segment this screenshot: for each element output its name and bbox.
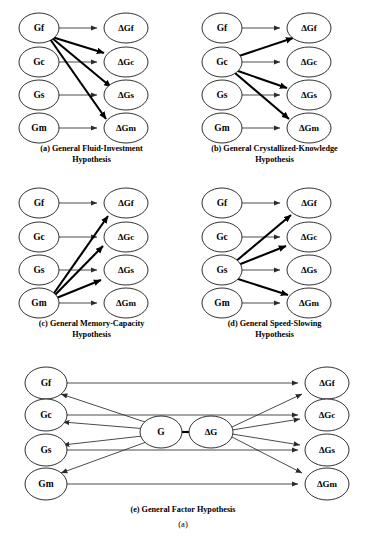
node-label-gs: Gs — [40, 445, 51, 455]
node-label-gf: Gf — [217, 198, 228, 208]
node-label-g: G — [157, 427, 165, 437]
panel-d-diagram: Gf Gc Gs Gm ΔGf ΔGc ΔGs ΔGm — [183, 175, 366, 320]
panel-b-node-gc: Gc — [202, 47, 242, 77]
panel-e-node-dg: ΔG — [189, 416, 233, 448]
panel-d-thin-edges — [242, 203, 280, 303]
node-label-dgc: ΔGc — [118, 232, 135, 242]
panel-b-node-dgc: ΔGc — [287, 47, 331, 77]
node-label-dgm: ΔGm — [116, 298, 137, 308]
node-label-gc: Gc — [33, 232, 45, 242]
panel-d-caption: (d) General Speed-Slowing Hypothesis — [183, 319, 366, 340]
panel-d-caption-line-2: Hypothesis — [183, 330, 366, 341]
panel-a-node-dgs: ΔGs — [104, 80, 148, 110]
node-label-dgf: ΔGf — [118, 23, 135, 33]
panel-e-node-gf: Gf — [25, 367, 67, 399]
panel-b-node-dgf: ΔGf — [287, 13, 331, 43]
node-label-gf: Gf — [217, 23, 228, 33]
node-label-gf: Gf — [34, 198, 45, 208]
panel-c-node-gc: Gc — [19, 222, 59, 252]
panel-a-caption-line-1: (a) General Fluid-Investment — [0, 144, 183, 155]
panel-d-caption-line-1: (d) General Speed-Slowing — [183, 319, 366, 330]
node-label-gs: Gs — [216, 265, 227, 275]
node-label-dgs: ΔGs — [118, 90, 135, 100]
node-label-gc: Gc — [33, 57, 45, 67]
panel-d-node-dgf: ΔGf — [287, 188, 331, 218]
panel-e-diagram: Gf Gc Gs Gm G ΔG ΔGf ΔGc — [0, 360, 366, 505]
node-label-gf: Gf — [41, 378, 52, 388]
panel-c-node-gm: Gm — [19, 288, 59, 318]
node-label-gf: Gf — [34, 23, 45, 33]
panel-d-node-dgs: ΔGs — [287, 255, 331, 285]
panel-e-dg-to-right-edges — [232, 394, 302, 473]
panel-a-node-gs: Gs — [19, 80, 59, 110]
node-label-dgm: ΔGm — [299, 298, 320, 308]
panel-e-node-gc: Gc — [25, 399, 67, 431]
node-label-dgc: ΔGc — [118, 57, 135, 67]
panel-c-node-dgf: ΔGf — [104, 188, 148, 218]
panel-b-caption: (b) General Crystallized-Knowledge Hypot… — [183, 144, 366, 165]
panel-d-node-dgm: ΔGm — [287, 288, 331, 318]
node-label-dgm: ΔGm — [317, 479, 338, 489]
panel-c-node-dgs: ΔGs — [104, 255, 148, 285]
panel-b-node-gs: Gs — [202, 80, 242, 110]
node-label-dgc: ΔGc — [319, 410, 336, 420]
node-label-dgs: ΔGs — [301, 90, 318, 100]
panel-a-node-gf: Gf — [19, 13, 59, 43]
panel-e-caption-line-1: (e) General Factor Hypothesis — [0, 505, 366, 516]
panel-d-node-gf: Gf — [202, 188, 242, 218]
panel-c-caption: (c) General Memory-Capacity Hypothesis — [0, 319, 183, 340]
node-label-dgs: ΔGs — [319, 445, 336, 455]
panel-b-node-dgs: ΔGs — [287, 80, 331, 110]
panel-a-node-gc: Gc — [19, 47, 59, 77]
panel-c-thin-edges — [59, 203, 97, 303]
node-label-dg: ΔG — [205, 427, 218, 437]
node-label-gc: Gc — [216, 57, 228, 67]
panel-e-caption: (e) General Factor Hypothesis — [0, 505, 366, 516]
panel-a-diagram: Gf Gc Gs Gm ΔGf ΔGc ΔGs ΔGm — [0, 0, 183, 145]
node-label-dgf: ΔGf — [301, 23, 318, 33]
panel-e-node-g: G — [140, 416, 182, 448]
node-label-dgs: ΔGs — [301, 265, 318, 275]
panel-a-thick-edges — [50, 37, 111, 119]
panel-e-node-gm: Gm — [25, 468, 67, 500]
node-label-gm: Gm — [38, 479, 53, 489]
node-label-dgm: ΔGm — [116, 123, 137, 133]
panel-b-node-dgm: ΔGm — [287, 113, 331, 143]
node-label-gm: Gm — [31, 123, 46, 133]
panel-d-thick-edges — [235, 215, 291, 295]
panel-d-node-dgc: ΔGc — [287, 222, 331, 252]
panel-e-node-gs: Gs — [25, 434, 67, 466]
node-label-gc: Gc — [216, 232, 228, 242]
panel-c-node-dgm: ΔGm — [104, 288, 148, 318]
node-label-dgc: ΔGc — [301, 57, 318, 67]
panel-b-node-gf: Gf — [202, 13, 242, 43]
panel-b-node-gm: Gm — [202, 113, 242, 143]
node-label-dgf: ΔGf — [118, 198, 135, 208]
panel-d-node-gc: Gc — [202, 222, 242, 252]
figure-container: Gf Gc Gs Gm ΔGf ΔGc ΔGs ΔGm — [0, 0, 366, 544]
panel-a-node-dgm: ΔGm — [104, 113, 148, 143]
node-label-gm: Gm — [214, 298, 229, 308]
panel-a-node-dgf: ΔGf — [104, 13, 148, 43]
panel-e-node-dgs: ΔGs — [305, 434, 349, 466]
panel-d-node-gm: Gm — [202, 288, 242, 318]
panel-a-caption: (a) General Fluid-Investment Hypothesis — [0, 144, 183, 165]
node-label-dgc: ΔGc — [301, 232, 318, 242]
panel-d-node-gs: Gs — [202, 255, 242, 285]
panel-e-node-dgm: ΔGm — [305, 468, 349, 500]
node-label-gm: Gm — [31, 298, 46, 308]
panel-c-node-gf: Gf — [19, 188, 59, 218]
node-label-gs: Gs — [33, 265, 44, 275]
figure-label: (a) — [0, 519, 366, 529]
panel-c-caption-line-1: (c) General Memory-Capacity — [0, 319, 183, 330]
panel-e-node-dgc: ΔGc — [305, 399, 349, 431]
panel-c-diagram: Gf Gc Gs Gm ΔGf ΔGc ΔGs ΔGm — [0, 175, 183, 320]
panel-b-diagram: Gf Gc Gs Gm ΔGf ΔGc ΔGs ΔGm — [183, 0, 366, 145]
panel-a-node-gm: Gm — [19, 113, 59, 143]
node-label-gm: Gm — [214, 123, 229, 133]
node-label-dgs: ΔGs — [118, 265, 135, 275]
node-label-gs: Gs — [216, 90, 227, 100]
panel-c-node-gs: Gs — [19, 255, 59, 285]
panel-c-caption-line-2: Hypothesis — [0, 330, 183, 341]
panel-e-node-dgf: ΔGf — [305, 367, 349, 399]
